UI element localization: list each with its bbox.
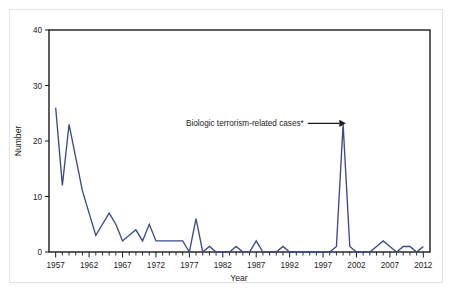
x-tick-label-2002: 2002: [347, 261, 366, 270]
x-tick-label-1957: 1957: [47, 261, 66, 270]
x-tick-label-2012: 2012: [414, 261, 433, 270]
x-tick-label-1997: 1997: [314, 261, 333, 270]
y-axis: 010203040: [33, 26, 49, 257]
figure-page: 010203040 195719621967197219771982198719…: [0, 0, 452, 292]
x-tick-label-1987: 1987: [247, 261, 266, 270]
x-tick-label-2007: 2007: [381, 261, 400, 270]
y-tick-label-20: 20: [33, 137, 43, 146]
data-series-group: [56, 108, 424, 252]
line-chart-figure: 010203040 195719621967197219771982198719…: [0, 0, 452, 292]
x-axis-title: Year: [230, 273, 248, 283]
series-line-number-of-cases: [56, 108, 424, 252]
x-tick-label-1982: 1982: [214, 261, 233, 270]
y-axis-title: Number: [13, 126, 23, 157]
x-tick-label-1972: 1972: [147, 261, 166, 270]
x-tick-label-1992: 1992: [281, 261, 300, 270]
y-tick-label-40: 40: [33, 26, 43, 35]
x-axis: 1957196219671972197719821987199219972002…: [47, 252, 433, 270]
x-tick-label-1962: 1962: [80, 261, 99, 270]
y-tick-label-30: 30: [33, 82, 43, 91]
y-tick-label-0: 0: [37, 248, 42, 257]
annotation-label: Biologic terrorism-related cases*: [186, 119, 305, 128]
y-tick-label-10: 10: [33, 193, 43, 202]
annotation-group: Biologic terrorism-related cases*: [186, 119, 346, 128]
x-tick-label-1977: 1977: [180, 261, 199, 270]
chart-canvas: 010203040 195719621967197219771982198719…: [0, 0, 452, 292]
x-tick-label-1967: 1967: [113, 261, 132, 270]
